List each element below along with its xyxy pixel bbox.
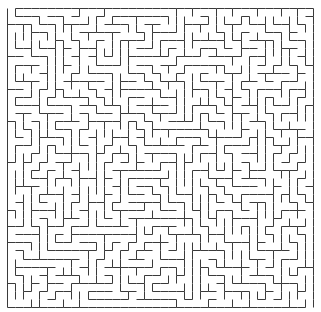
maze: top bottom <box>0 0 321 312</box>
maze-canvas <box>0 0 321 312</box>
